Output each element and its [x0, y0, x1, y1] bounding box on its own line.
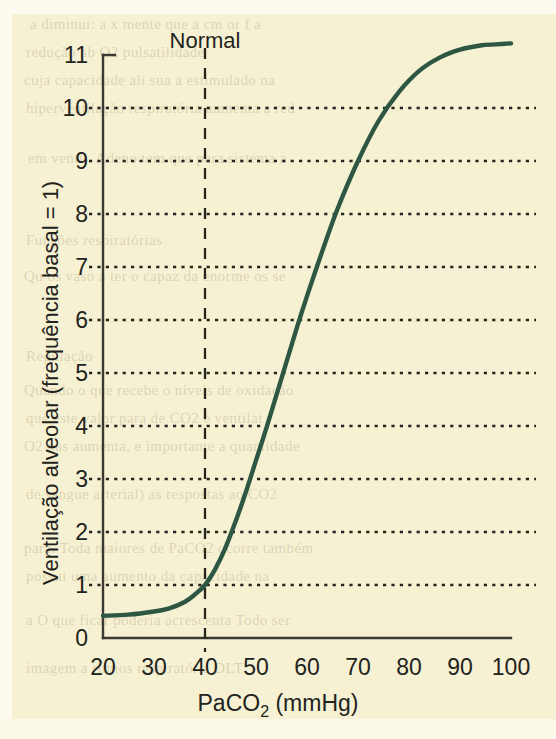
y-tick-label-11: 11	[40, 44, 88, 67]
x-tick-label-80: 80	[396, 656, 422, 679]
chart-figure: a diminui: a x mente que a cm or f aredu…	[0, 0, 556, 739]
x-axis-title-subscript: 2	[260, 703, 269, 720]
y-tick-label-9: 9	[40, 150, 88, 173]
x-tick-label-20: 20	[90, 656, 116, 679]
normal-annotation-label: Normal	[170, 28, 241, 54]
y-axis-title: Ventilação alveolar (frequência basal = …	[38, 181, 64, 585]
x-axis-title-text: PaCO	[198, 690, 261, 716]
x-tick-label-40: 40	[192, 656, 218, 679]
x-tick-label-90: 90	[447, 656, 473, 679]
y-tick-label-0: 0	[40, 627, 88, 650]
y-tick-label-10: 10	[40, 97, 88, 120]
x-tick-label-50: 50	[243, 656, 269, 679]
x-tick-label-70: 70	[345, 656, 371, 679]
x-axis-title: PaCO2 (mmHg)	[0, 690, 556, 721]
x-tick-label-30: 30	[141, 656, 167, 679]
ventilation-curve	[103, 43, 511, 615]
gridlines	[89, 55, 536, 585]
x-tick-label-100: 100	[492, 656, 530, 679]
x-tick-label-60: 60	[294, 656, 320, 679]
x-axis-title-unit: (mmHg)	[269, 690, 358, 716]
